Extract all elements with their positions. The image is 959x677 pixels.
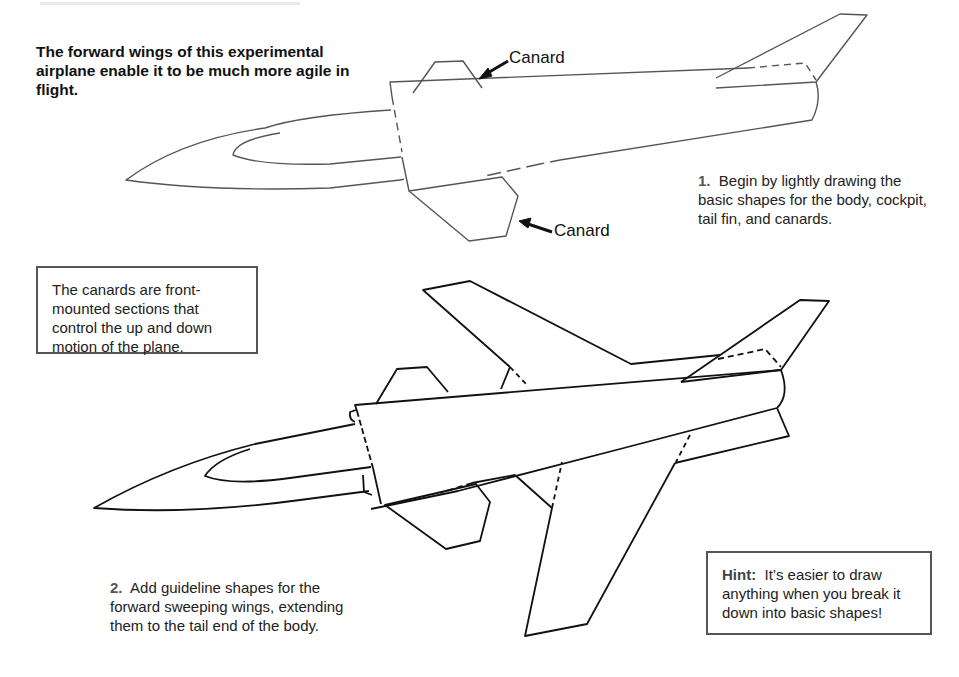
step-2-instruction: 2. Add guideline shapes for the forward … — [110, 578, 370, 635]
step-1-instruction: 1. Begin by lightly drawing the basic sh… — [698, 171, 938, 228]
canard-label-bottom: Canard — [554, 221, 610, 241]
step-2-text: Add guideline shapes for the forward swe… — [110, 579, 343, 634]
step-1-text: Begin by lightly drawing the basic shape… — [698, 172, 927, 227]
hint-box: Hint: It’s easier to draw anything when … — [706, 551, 932, 635]
intro-text: The forward wings of this experimental a… — [36, 42, 356, 99]
hint-label: Hint: — [722, 566, 756, 583]
canard-info-box: The canards are front-mounted sections t… — [36, 266, 258, 354]
canard-label-top: Canard — [509, 48, 565, 68]
canard-info-text: The canards are front-mounted sections t… — [52, 281, 212, 355]
step-1-number: 1. — [698, 172, 711, 189]
step-2-number: 2. — [110, 579, 123, 596]
